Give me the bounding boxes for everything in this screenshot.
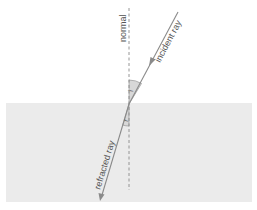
- refraction-diagram: normal incident ray refracted ray i r: [0, 0, 257, 210]
- incident-ray-label: incident ray: [153, 18, 184, 64]
- normal-label: normal: [118, 14, 128, 42]
